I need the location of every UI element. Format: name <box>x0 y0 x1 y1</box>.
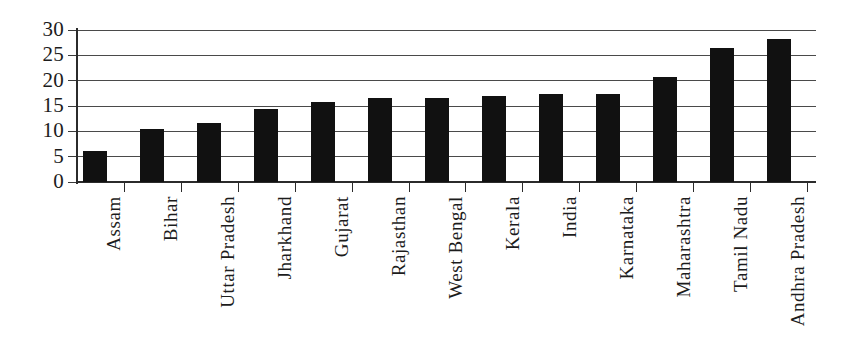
x-tick-label-kerala: Kerala <box>503 196 522 250</box>
x-tick-label-karnataka: Karnataka <box>617 196 636 279</box>
x-tick-label-bihar: Bihar <box>161 196 180 241</box>
x-tick-label-tamil-nadu: Tamil Nadu <box>731 196 750 292</box>
x-tick-label-text: India <box>560 196 579 238</box>
x-tick-label-andhra-pradesh: Andhra Pradesh <box>788 196 807 326</box>
x-tick-label-india: India <box>560 196 579 238</box>
x-tick-label-assam: Assam <box>104 196 123 251</box>
x-tick-label-text: Karnataka <box>617 196 636 279</box>
x-tick-label-text: Tamil Nadu <box>731 196 750 292</box>
x-tick-label-west-bengal: West Bengal <box>446 196 465 299</box>
x-tick-label-text: Kerala <box>503 196 522 250</box>
x-tick-label-text: Jharkhand <box>275 196 294 280</box>
x-tick-label-text: Maharashtra <box>674 196 693 298</box>
x-tick-label-text: Assam <box>104 196 123 251</box>
x-tick-label-text: Andhra Pradesh <box>788 196 807 326</box>
x-tick-label-maharashtra: Maharashtra <box>674 196 693 298</box>
x-tick-label-rajasthan: Rajasthan <box>389 196 408 276</box>
x-tick-label-text: Rajasthan <box>389 196 408 276</box>
bar-chart: 051015202530 AssamBiharUttar PradeshJhar… <box>0 0 847 355</box>
x-axis-labels: AssamBiharUttar PradeshJharkhandGujaratR… <box>0 0 847 355</box>
x-tick-label-uttar-pradesh: Uttar Pradesh <box>218 196 237 308</box>
x-tick-label-gujarat: Gujarat <box>332 196 351 257</box>
x-tick-label-text: Gujarat <box>332 196 351 257</box>
x-tick-label-text: West Bengal <box>446 196 465 299</box>
x-tick-label-jharkhand: Jharkhand <box>275 196 294 280</box>
x-tick-label-text: Bihar <box>161 196 180 241</box>
x-tick-label-text: Uttar Pradesh <box>218 196 237 308</box>
